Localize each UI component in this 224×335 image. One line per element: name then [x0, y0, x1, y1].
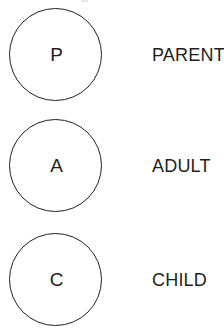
ego-circle-child[interactable]: C — [9, 233, 102, 326]
ego-state-label-child: CHILD — [152, 231, 224, 328]
ego-circle-letter-child: C — [10, 234, 103, 327]
ego-state-label-adult: ADULT — [152, 117, 224, 214]
ego-circle-letter-parent: P — [10, 9, 103, 102]
ego-state-row-adult: A ADULT — [0, 117, 224, 216]
ego-circle-adult[interactable]: A — [9, 119, 102, 212]
ego-circle-letter-adult: A — [10, 120, 103, 213]
scan-artifact-speck — [81, 0, 88, 2]
ego-state-row-parent: P PARENT — [0, 6, 224, 105]
ego-state-label-parent: PARENT — [152, 6, 224, 103]
ego-state-diagram: P PARENT A ADULT C CHILD — [0, 0, 224, 335]
ego-state-row-child: C CHILD — [0, 231, 224, 330]
ego-circle-parent[interactable]: P — [9, 8, 102, 101]
